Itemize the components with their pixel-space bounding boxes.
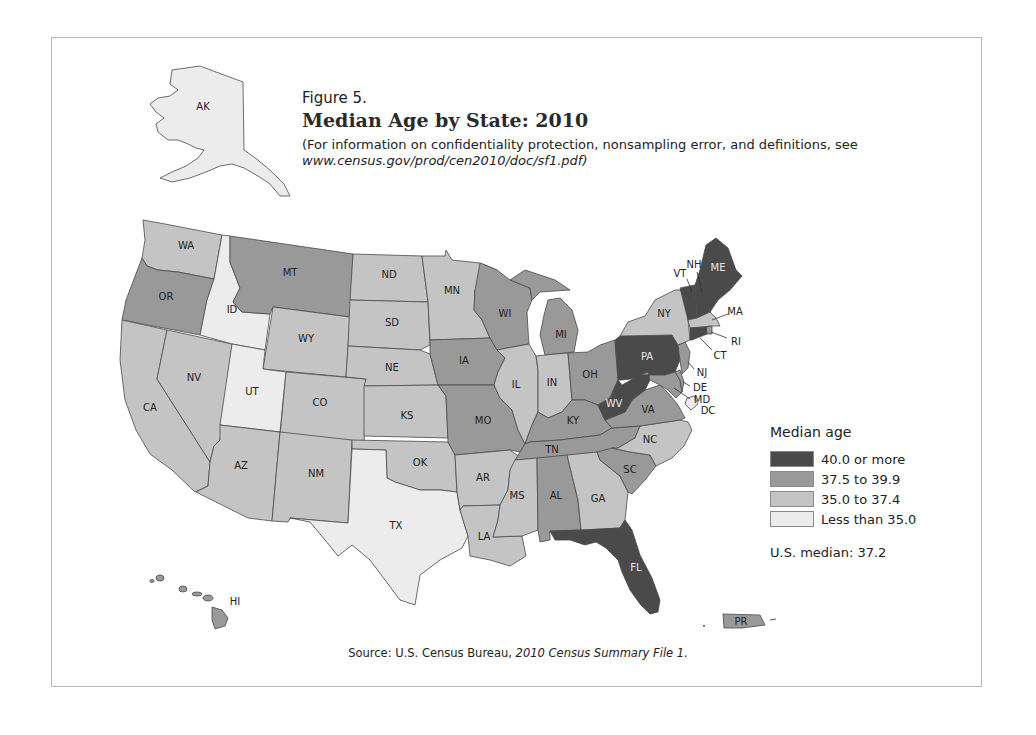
- label-mi: MI: [555, 329, 567, 340]
- label-al: AL: [550, 490, 563, 501]
- label-ky: KY: [567, 415, 580, 426]
- label-mt: MT: [283, 267, 299, 278]
- label-va: VA: [641, 404, 654, 415]
- state-fl: [550, 520, 660, 614]
- label-ne: NE: [385, 362, 399, 373]
- label-nj: NJ: [697, 367, 707, 378]
- label-tx: TX: [389, 520, 403, 531]
- label-mn: MN: [444, 285, 460, 296]
- source-prefix: Source: U.S. Census Bureau,: [348, 646, 515, 660]
- legend-swatch-medium: [770, 471, 814, 487]
- label-nv: NV: [187, 372, 201, 383]
- label-co: CO: [313, 397, 328, 408]
- label-wy: WY: [298, 333, 315, 344]
- legend-label: 35.0 to 37.4: [821, 492, 900, 507]
- label-oh: OH: [582, 369, 597, 380]
- legend-swatch-lightest: [770, 511, 814, 527]
- label-az: AZ: [234, 460, 248, 471]
- label-nm: NM: [308, 468, 324, 479]
- label-pa: PA: [641, 351, 653, 362]
- legend-item: Less than 35.0: [770, 509, 916, 529]
- leader-de: [683, 382, 690, 386]
- leader-nj: [688, 362, 694, 369]
- label-ks: KS: [401, 410, 414, 421]
- label-me: ME: [711, 262, 726, 273]
- label-de: DE: [693, 382, 707, 393]
- label-ny: NY: [657, 308, 671, 319]
- legend-item: 35.0 to 37.4: [770, 489, 916, 509]
- label-ok: OK: [413, 457, 428, 468]
- label-in: IN: [547, 377, 557, 388]
- state-hi: [150, 575, 228, 629]
- source-title: 2010 Census Summary File 1.: [516, 646, 688, 660]
- legend: Median age 40.0 or more 37.5 to 39.9 35.…: [770, 423, 916, 560]
- label-tn: TN: [544, 444, 559, 455]
- label-ga: GA: [591, 493, 606, 504]
- label-or: OR: [159, 291, 174, 302]
- legend-swatch-dark: [770, 451, 814, 467]
- source-note: Source: U.S. Census Bureau, 2010 Census …: [0, 646, 1036, 660]
- pr-islet: [770, 619, 776, 620]
- label-pr: PR: [735, 616, 748, 627]
- label-ms: MS: [510, 490, 525, 501]
- label-nc: NC: [643, 434, 657, 445]
- label-dc: DC: [701, 405, 716, 416]
- state-ak: [150, 66, 290, 196]
- label-hi: HI: [230, 596, 240, 607]
- label-ca: CA: [143, 402, 157, 413]
- label-la: LA: [478, 531, 491, 542]
- label-wv: WV: [606, 398, 623, 409]
- leader-ri: [711, 332, 727, 338]
- legend-label: 40.0 or more: [821, 452, 905, 467]
- state-nj: [678, 342, 690, 374]
- legend-swatch-light: [770, 491, 814, 507]
- legend-label: 37.5 to 39.9: [821, 472, 900, 487]
- us-median: U.S. median: 37.2: [770, 545, 916, 560]
- pr-islet-dot: [703, 625, 705, 627]
- legend-item: 40.0 or more: [770, 449, 916, 469]
- label-fl: FL: [630, 562, 642, 573]
- label-wi: WI: [499, 308, 512, 319]
- label-ak: AK: [196, 101, 210, 112]
- legend-item: 37.5 to 39.9: [770, 469, 916, 489]
- leader-ct: [700, 338, 712, 350]
- label-wa: WA: [178, 240, 194, 251]
- label-nh: NH: [687, 259, 702, 270]
- state-ct: [690, 327, 707, 340]
- label-nd: ND: [381, 269, 396, 280]
- label-il: IL: [512, 379, 521, 390]
- label-ar: AR: [476, 472, 490, 483]
- label-vt: VT: [674, 268, 688, 279]
- legend-title: Median age: [770, 423, 916, 441]
- label-ut: UT: [245, 386, 259, 397]
- legend-label: Less than 35.0: [821, 512, 916, 527]
- label-md: MD: [694, 394, 711, 405]
- label-ma: MA: [727, 306, 743, 317]
- label-sc: SC: [623, 464, 636, 475]
- us-map: AK WA OR CA NV ID MT WY UT CO AZ NM ND S…: [0, 0, 1036, 735]
- label-ri: RI: [731, 336, 741, 347]
- label-ct: CT: [713, 350, 727, 361]
- label-sd: SD: [385, 317, 399, 328]
- label-ia: IA: [459, 355, 469, 366]
- label-mo: MO: [475, 415, 492, 426]
